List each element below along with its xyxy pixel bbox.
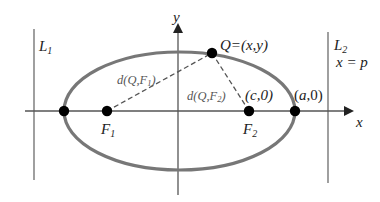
f2-label: F2 <box>242 121 257 139</box>
y-axis-label: y <box>171 9 180 25</box>
l1-label: L1 <box>38 38 52 56</box>
point-f2 <box>244 106 254 116</box>
x-axis-label: x <box>355 114 363 130</box>
distance-q-f2-label: d(Q,F2) <box>187 89 226 104</box>
ellipse-diagram: y x L1 L2 x = p Q=(x,y) F1 F2 (c,0) (a,0… <box>0 0 380 202</box>
f1-label: F1 <box>100 121 115 139</box>
point-q <box>207 48 217 58</box>
l2-equation: x = p <box>335 54 368 70</box>
distance-q-f1-label: d(Q,F1) <box>117 73 156 88</box>
point-left-vertex <box>59 106 69 116</box>
point-right-vertex <box>290 106 300 116</box>
point-f1 <box>102 106 112 116</box>
right-vertex-label: (a,0) <box>294 87 323 104</box>
q-label: Q=(x,y) <box>220 37 268 54</box>
l2-label: L2 <box>333 37 347 55</box>
f2-coord-label: (c,0) <box>245 87 273 104</box>
